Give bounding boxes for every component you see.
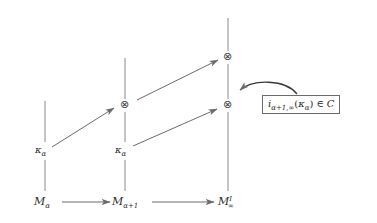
callout-close-paren: ) [310,98,314,109]
kappa-left-label: κα [35,145,46,155]
node-m-alpha-plus-1: Mα+1 [112,196,138,207]
kappa-middle-label: κα [115,145,126,155]
kappa-middle-symbol: κ [115,144,122,155]
node-m-alpha: Mα [34,196,50,207]
arrow-kappa-middle-to-otimes-right-lower [133,109,217,146]
otimes-right-upper-icon: ⊗ [223,51,232,62]
kappa-middle-subscript: α [122,150,127,158]
kappa-left-subscript: α [42,150,47,158]
callout-kappa: κ [298,98,305,109]
node-m-alpha-symbol: M [34,195,45,208]
node-m-alpha-plus-1-symbol: M [112,195,123,208]
kappa-left-symbol: κ [35,144,42,155]
callout-curved-arrow [240,82,297,94]
otimes-right-lower-icon: ⊗ [223,99,232,110]
node-m-alpha-subscript: α [45,202,50,210]
callout-i-subscript: α+1,∞ [271,104,294,112]
callout-formula: iα+1,∞(κα)∈C [268,99,334,109]
callout-box: iα+1,∞(κα)∈C [262,95,340,114]
node-m-infinity-I: MI∞ [218,196,238,207]
callout-set-symbol: C [327,98,335,109]
node-m-infinity-subscript: ∞ [228,202,234,210]
diagram-canvas: ⊗ ⊗ ⊗ κα κα Mα Mα+1 MI∞ iα+1,∞(κα)∈C [0,0,377,223]
arrow-kappa-left-to-otimes-middle [52,108,114,147]
callout-membership-symbol: ∈ [316,98,323,109]
callout-kappa-subscript: α [305,104,310,112]
otimes-middle-icon: ⊗ [120,99,129,110]
arrow-otimes-middle-to-otimes-right-upper [137,60,218,100]
node-m-alpha-plus-1-subscript: α+1 [123,202,138,210]
